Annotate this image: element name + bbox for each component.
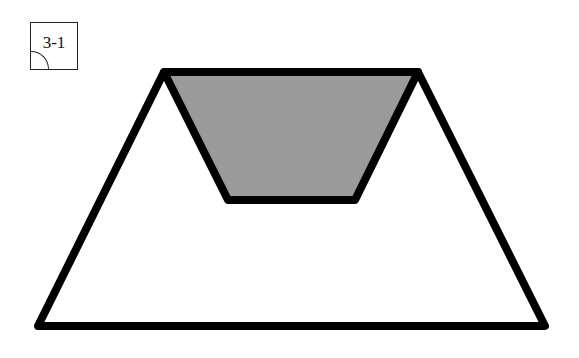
trapezoid-diagram: [0, 0, 579, 358]
